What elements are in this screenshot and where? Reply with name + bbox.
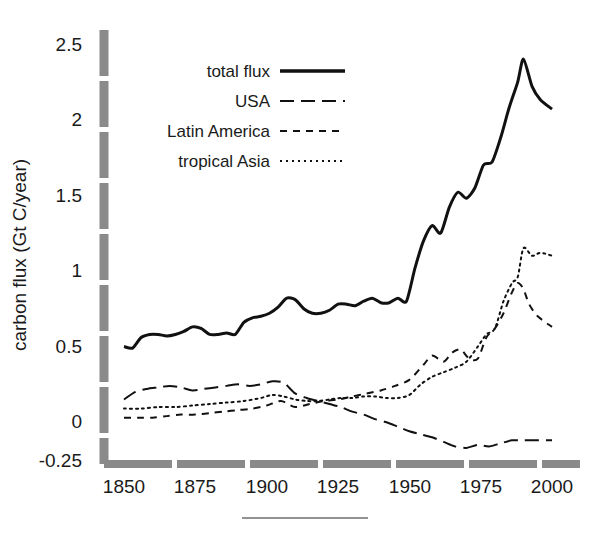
y-tick-label: 2 [71, 109, 82, 130]
x-tick-label: 1925 [317, 476, 359, 497]
x-tick-label: 1875 [174, 476, 216, 497]
y-tick-label: 1.5 [56, 185, 82, 206]
legend-label-latin-america: Latin America [167, 122, 271, 141]
y-axis-title: carbon flux (Gt C/year) [9, 159, 30, 351]
x-tick-label: 1900 [246, 476, 288, 497]
y-tick-label: 2.5 [56, 34, 82, 55]
x-tick-label: 1950 [389, 476, 431, 497]
x-tick-label: 1850 [103, 476, 145, 497]
y-tick-label: -0.25 [39, 450, 82, 471]
chart-background [0, 0, 600, 536]
carbon-flux-line-chart: carbon flux (Gt C/year) 2.5 2 1.5 1 0.5 … [0, 0, 600, 536]
x-tick-label: 1975 [460, 476, 502, 497]
legend-label-total-flux: total flux [207, 62, 271, 81]
legend-label-usa: USA [235, 92, 271, 111]
x-tick-label: 2000 [531, 476, 573, 497]
y-tick-label: 0 [71, 411, 82, 432]
y-tick-label: 1 [71, 260, 82, 281]
y-tick-label: 0.5 [56, 336, 82, 357]
chart-figure: carbon flux (Gt C/year) 2.5 2 1.5 1 0.5 … [0, 0, 600, 536]
legend-label-tropical-asia: tropical Asia [178, 152, 270, 171]
